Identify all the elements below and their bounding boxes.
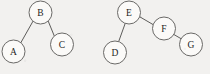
tree-diagram-canvas: B A C E D <box>0 0 210 74</box>
edge-f-g <box>174 34 182 39</box>
edge-e-f <box>139 17 153 25</box>
node-a-label: A <box>10 47 17 57</box>
node-b-label: B <box>37 8 43 18</box>
edge-e-d <box>119 23 125 41</box>
edge-b-a <box>21 21 34 43</box>
node-c[interactable]: C <box>51 33 74 56</box>
node-e[interactable]: E <box>118 1 141 24</box>
node-e-label: E <box>126 8 132 18</box>
node-f-label: F <box>161 24 166 34</box>
node-a[interactable]: A <box>2 40 25 63</box>
node-c-label: C <box>59 40 65 50</box>
right-tree-group: E D F G <box>104 1 203 64</box>
node-f[interactable]: F <box>153 17 176 40</box>
node-b[interactable]: B <box>29 1 52 24</box>
tree-figure: B A C E D <box>0 0 210 74</box>
node-d[interactable]: D <box>104 41 127 64</box>
node-g[interactable]: G <box>180 33 203 56</box>
node-g-label: G <box>188 40 195 50</box>
edge-b-c <box>48 20 55 37</box>
node-d-label: D <box>112 48 119 58</box>
left-tree-group: B A C <box>2 1 74 63</box>
